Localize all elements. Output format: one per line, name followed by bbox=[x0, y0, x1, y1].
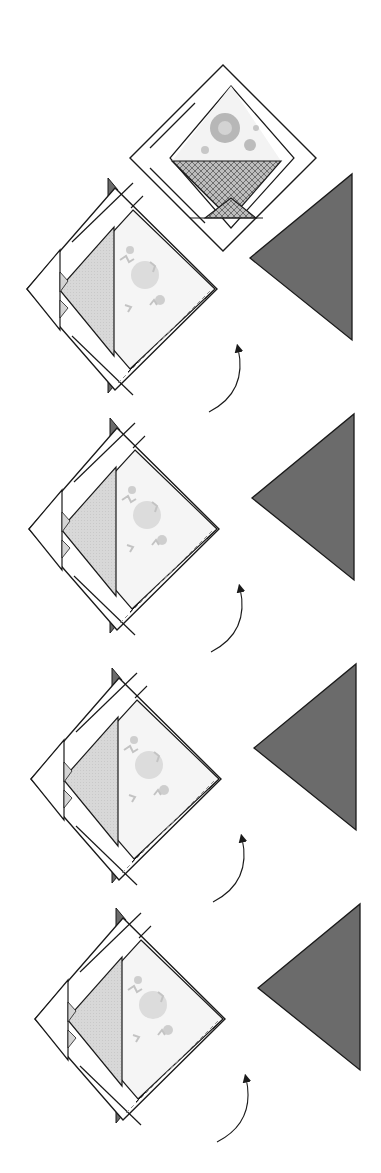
assembly-step-4 bbox=[35, 904, 360, 1142]
rotate-arrow-icon bbox=[202, 580, 252, 655]
rotate-arrow-icon bbox=[200, 340, 250, 415]
assembly-diagram bbox=[0, 0, 381, 1173]
assembly-step-2 bbox=[29, 414, 354, 652]
rotate-arrow-icon bbox=[208, 1070, 258, 1145]
finished-basket-block bbox=[130, 65, 316, 251]
rotate-arrow-icon bbox=[204, 830, 254, 905]
assembly-step-3 bbox=[31, 664, 356, 902]
